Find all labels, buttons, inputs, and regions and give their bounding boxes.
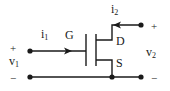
v1-minus-terminal [27, 74, 32, 79]
i1-label: i1 [41, 27, 48, 42]
v1-minus-sign: − [10, 72, 16, 84]
source-junction [109, 74, 114, 79]
v1-plus-terminal [27, 48, 32, 53]
source-wire [96, 60, 112, 77]
source-label: S [116, 56, 123, 70]
v1-plus-sign: + [10, 42, 16, 54]
drain-label: D [116, 34, 125, 48]
i2-label: i2 [111, 2, 118, 17]
v2-minus-terminal [138, 74, 143, 79]
v2-label: v2 [146, 45, 156, 60]
v2-plus-sign: + [151, 20, 157, 32]
v2-minus-sign: − [151, 72, 157, 84]
mosfet-circuit-diagram: i1 G D S i2 + v1 − + v2 − [0, 0, 170, 91]
gate-label: G [65, 28, 74, 42]
v1-label: v1 [9, 54, 19, 69]
v2-plus-terminal [138, 22, 143, 27]
